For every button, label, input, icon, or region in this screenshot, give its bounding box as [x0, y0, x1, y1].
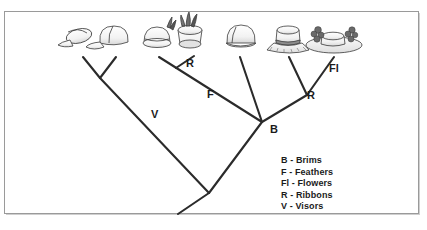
branch-label-brims: B	[270, 123, 278, 135]
branch-label-flowers: Fl	[329, 62, 339, 74]
branch-label-feathers: F	[207, 88, 214, 100]
branch-b-right	[262, 95, 307, 122]
hat-visor	[58, 26, 93, 47]
hat-flower-brim	[306, 27, 362, 53]
hat-baseball-cap	[86, 26, 128, 49]
legend-item-visors: V - Visors	[281, 201, 333, 213]
branch-root-right	[209, 122, 262, 193]
branch-ribbon-brim	[289, 57, 307, 95]
branch-bowler	[240, 57, 262, 122]
branch-label-ribbons-right: R	[307, 89, 315, 101]
hat-ribbon-brim	[267, 26, 309, 53]
branch-label-visors: V	[151, 108, 158, 120]
legend-item-brims: B - Brims	[281, 155, 333, 167]
branch-root	[178, 193, 209, 214]
hat-plain-dome	[226, 25, 256, 47]
cladogram-drawing	[0, 0, 427, 230]
cladogram-figure: R F Fl R B V B - Brims F - Feathers Fl -…	[0, 0, 427, 230]
branch-root-left	[100, 78, 209, 193]
trait-legend: B - Brims F - Feathers Fl - Flowers R - …	[281, 155, 333, 213]
legend-item-feathers: F - Feathers	[281, 167, 333, 179]
legend-item-flowers: Fl - Flowers	[281, 178, 333, 190]
legend-item-ribbons: R - Ribbons	[281, 190, 333, 202]
hat-feather-pillbox	[178, 12, 202, 48]
branch-baseball-cap	[100, 57, 116, 78]
hat-feather-cap	[143, 17, 176, 48]
branch-label-ribbons-left: R	[186, 57, 194, 69]
branch-visor	[83, 57, 100, 78]
